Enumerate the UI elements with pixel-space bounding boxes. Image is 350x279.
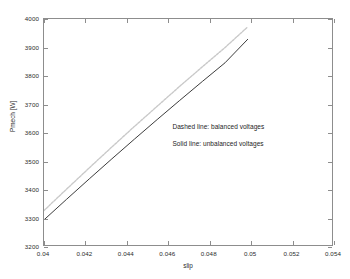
y-tick-label: 3600 bbox=[13, 129, 39, 136]
y-tick-mark bbox=[44, 247, 48, 248]
figure-canvas: Dashed line: balanced voltagesSolid line… bbox=[0, 0, 350, 279]
x-tick-mark bbox=[210, 241, 211, 245]
y-tick-mark-right bbox=[328, 19, 332, 20]
x-tick-label: 0.044 bbox=[118, 250, 134, 257]
x-tick-mark bbox=[85, 241, 86, 245]
y-tick-label: 3800 bbox=[13, 72, 39, 79]
y-tick-mark-right bbox=[328, 76, 332, 77]
y-tick-label: 3900 bbox=[13, 43, 39, 50]
x-tick-label: 0.04 bbox=[37, 250, 49, 257]
y-tick-mark bbox=[44, 105, 48, 106]
x-axis-title: slip bbox=[43, 262, 333, 269]
y-tick-label: 4000 bbox=[13, 15, 39, 22]
x-tick-mark bbox=[44, 241, 45, 245]
x-tick-mark-top bbox=[334, 19, 335, 23]
x-tick-mark-top bbox=[251, 19, 252, 23]
series-line-balanced-voltages bbox=[44, 27, 248, 211]
y-tick-mark-right bbox=[328, 105, 332, 106]
y-tick-mark bbox=[44, 219, 48, 220]
x-tick-mark bbox=[127, 241, 128, 245]
y-tick-mark bbox=[44, 162, 48, 163]
x-tick-mark-top bbox=[210, 19, 211, 23]
y-tick-mark-right bbox=[328, 48, 332, 49]
x-tick-label: 0.054 bbox=[325, 250, 341, 257]
data-lines-svg bbox=[44, 19, 332, 245]
y-tick-label: 3500 bbox=[13, 157, 39, 164]
y-tick-label: 3400 bbox=[13, 186, 39, 193]
plot-annotation: Solid line: unbalanced voltages bbox=[172, 140, 263, 147]
y-tick-mark-right bbox=[328, 219, 332, 220]
y-tick-mark-right bbox=[328, 162, 332, 163]
y-tick-mark bbox=[44, 190, 48, 191]
plot-area: Dashed line: balanced voltagesSolid line… bbox=[43, 18, 333, 246]
y-tick-label: 3200 bbox=[13, 243, 39, 250]
x-tick-mark-top bbox=[293, 19, 294, 23]
y-tick-mark-right bbox=[328, 133, 332, 134]
y-tick-mark-right bbox=[328, 247, 332, 248]
x-tick-mark-top bbox=[127, 19, 128, 23]
x-tick-label: 0.052 bbox=[284, 250, 300, 257]
x-tick-label: 0.046 bbox=[159, 250, 175, 257]
y-tick-label: 3700 bbox=[13, 100, 39, 107]
x-tick-mark bbox=[293, 241, 294, 245]
x-tick-mark bbox=[251, 241, 252, 245]
x-tick-mark-top bbox=[168, 19, 169, 23]
y-tick-mark bbox=[44, 76, 48, 77]
x-tick-label: 0.042 bbox=[76, 250, 92, 257]
y-tick-mark bbox=[44, 19, 48, 20]
plot-annotation: Dashed line: balanced voltages bbox=[172, 123, 264, 130]
y-tick-label: 3300 bbox=[13, 214, 39, 221]
x-tick-mark bbox=[334, 241, 335, 245]
y-tick-mark-right bbox=[328, 190, 332, 191]
x-tick-mark-top bbox=[85, 19, 86, 23]
y-axis-title: Pmech [W] bbox=[9, 101, 16, 132]
y-tick-mark bbox=[44, 133, 48, 134]
x-tick-label: 0.048 bbox=[201, 250, 217, 257]
y-tick-mark bbox=[44, 48, 48, 49]
x-tick-mark bbox=[168, 241, 169, 245]
x-tick-label: 0.05 bbox=[244, 250, 256, 257]
